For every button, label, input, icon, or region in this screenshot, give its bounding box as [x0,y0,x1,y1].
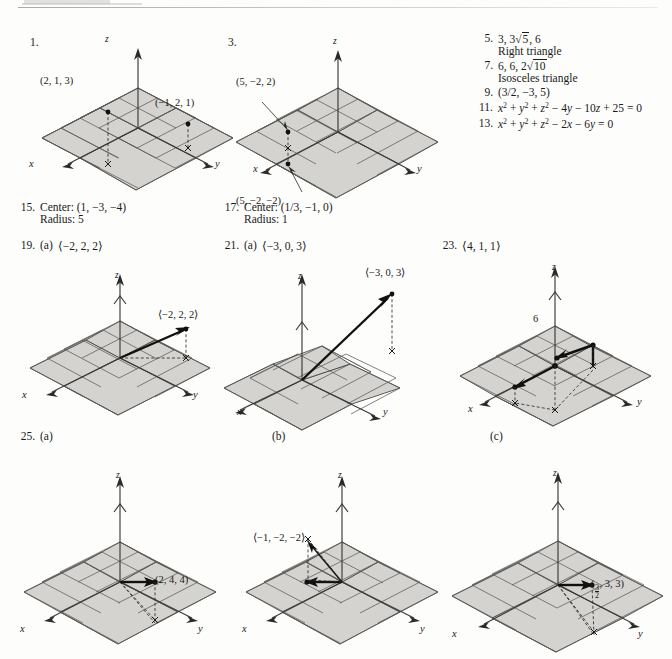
answer-7-line1: 6, 6, 2√10 [498,60,547,72]
figure-25c-label-a: (32, 3, 3) [591,578,624,600]
figure-1-label-b: (−1, 2, 1) [155,97,194,108]
figure-19 [22,258,227,403]
figure-21-axis-z: z [298,271,302,281]
figure-21-axis-y: y [383,406,388,417]
figure-1-label-a: (2, 1, 3) [40,75,73,86]
figure-3-axis-z: z [333,36,337,46]
figure-25c-axis-y: y [638,628,643,639]
figure-25c [448,460,663,655]
answer-7-body: 6, 6, 2√10 Isosceles triangle [498,59,578,84]
figure-19-svg [22,258,227,403]
figure-25b-axis-z: z [338,470,342,480]
figure-25a-svg [18,460,228,650]
answer-17-radius: Radius: 1 [244,213,333,225]
header-rule-secondary [22,3,142,5]
answer-11-number: 11. [476,101,493,113]
figure-25c-label-suffix: , 3, 3) [600,578,625,589]
answer-item-17: 17. Center: (1/3, −1, 0) Radius: 1 [222,201,333,225]
figure-1-svg [28,40,238,180]
answer-item-5: 5. 3, 3√5, 6 Right triangle [476,32,672,57]
figure-25b-svg [240,460,450,650]
figure-1-axis-y: y [215,158,220,169]
figure-23-label-six: 6 [533,313,538,324]
figure-25a-axis-y: y [198,623,203,634]
figure-23-axis-z: z [552,262,556,272]
figure-25b-axis-y: y [420,623,425,634]
figure-21 [240,258,445,403]
figure-25a-label-a: (2, 4, 4) [155,574,188,585]
figure-1-axis-x: x [29,158,34,169]
figure-25b-label-a: ⟨−1, −2, −2⟩ [253,531,305,543]
answer-23-number: 23. [440,239,457,251]
answer-item-21: 21. (a) ⟨−3, 0, 3⟩ [222,239,307,253]
figure-1-axis-z: z [105,34,109,44]
figure-3-label-a: (5, −2, 2) [236,76,275,87]
figure-25a [18,460,228,650]
answer-25-part-b: (b) [272,430,285,442]
answers-column-3: 5. 3, 3√5, 6 Right triangle 7. 6, 6, 2√1… [476,32,672,129]
figure-19-axis-z: z [115,270,119,280]
figure-3 [226,40,441,185]
answer-11-equation: x2 + y2 + z2 − 4y − 10z + 25 = 0 [498,101,642,114]
answer-9-value: (3/2, −3, 5) [498,86,550,98]
answer-21-number: 21. [222,239,239,251]
figure-25b [240,460,450,650]
answer-23-value: ⟨4, 1, 1⟩ [462,239,501,253]
figure-25c-fraction: 32 [595,584,599,600]
answer-17-center: Center: (1/3, −1, 0) [244,201,333,213]
answer-item-9: 9. (3/2, −3, 5) [476,86,672,98]
answer-17-body: Center: (1/3, −1, 0) Radius: 1 [244,201,333,225]
figure-23-axis-y: y [637,396,642,407]
answer-5-line2: Right triangle [498,45,562,57]
figure-3-axis-x: x [253,163,258,174]
figure-23-svg [455,258,665,408]
figure-21-axis-x: x [237,406,242,417]
figure-25a-axis-z: z [116,470,120,480]
answer-7-number: 7. [476,59,493,71]
figure-3-svg [226,40,441,185]
answer-item-23: 23. ⟨4, 1, 1⟩ [440,239,501,253]
answer-15-number: 15. [18,201,35,213]
figure-25c-label-prefix: ( [591,578,595,589]
figure-25b-axis-x: x [242,623,247,634]
figure-25c-frac-denominator: 2 [595,591,599,600]
figure-25a-axis-x: x [20,623,25,634]
figure-19-axis-x: x [22,389,27,400]
answer-item-11: 11. x2 + y2 + z2 − 4y − 10z + 25 = 0 [476,101,672,114]
header-rule [18,7,658,8]
figure-25c-frac-numerator: 3 [595,584,599,592]
answer-key-page: 1. [0,0,672,659]
answer-item-7: 7. 6, 6, 2√10 Isosceles triangle [476,59,672,84]
figure-25c-axis-z: z [553,468,557,478]
figure-1 [28,40,238,180]
figure-19-label-a: ⟨−2, 2, 2⟩ [158,308,198,320]
figure-21-svg [240,258,445,403]
figure-25c-svg [448,460,663,655]
answer-15-radius: Radius: 5 [40,213,126,225]
answer-item-19: 19. (a) ⟨−2, 2, 2⟩ [18,239,103,253]
answer-15-center: Center: (1, −3, −4) [40,201,126,213]
coordinate-plane [236,88,438,198]
answer-item-13: 13. x2 + y2 + z2 − 2x − 6y = 0 [476,117,672,130]
answer-item-25: 25. (a) [18,430,53,442]
answer-21-part: (a) [244,239,257,251]
answer-5-body: 3, 3√5, 6 Right triangle [498,32,562,57]
answer-7-line2: Isosceles triangle [498,72,578,84]
answer-19-part: (a) [40,239,53,251]
sqrt-7-icon: √10 [527,59,547,72]
answer-15-body: Center: (1, −3, −4) Radius: 5 [40,201,126,225]
figure-25c-axis-x: x [452,628,457,639]
answer-19-value: ⟨−2, 2, 2⟩ [58,239,103,253]
figure-21-label-a: ⟨−3, 0, 3⟩ [365,266,405,278]
answer-9-number: 9. [476,86,493,98]
answer-25-part-c: (c) [490,430,503,442]
answer-17-number: 17. [222,201,239,213]
sqrt-5-icon: √5 [515,32,529,45]
answer-5-line1: 3, 3√5, 6 [498,33,541,45]
answer-item-15: 15. Center: (1, −3, −4) Radius: 5 [18,201,126,225]
figure-3-axis-y: y [417,163,422,174]
answer-21-value: ⟨−3, 0, 3⟩ [262,239,307,253]
answer-5-number: 5. [476,32,493,44]
figure-23 [455,258,665,408]
answer-19-number: 19. [18,239,35,251]
